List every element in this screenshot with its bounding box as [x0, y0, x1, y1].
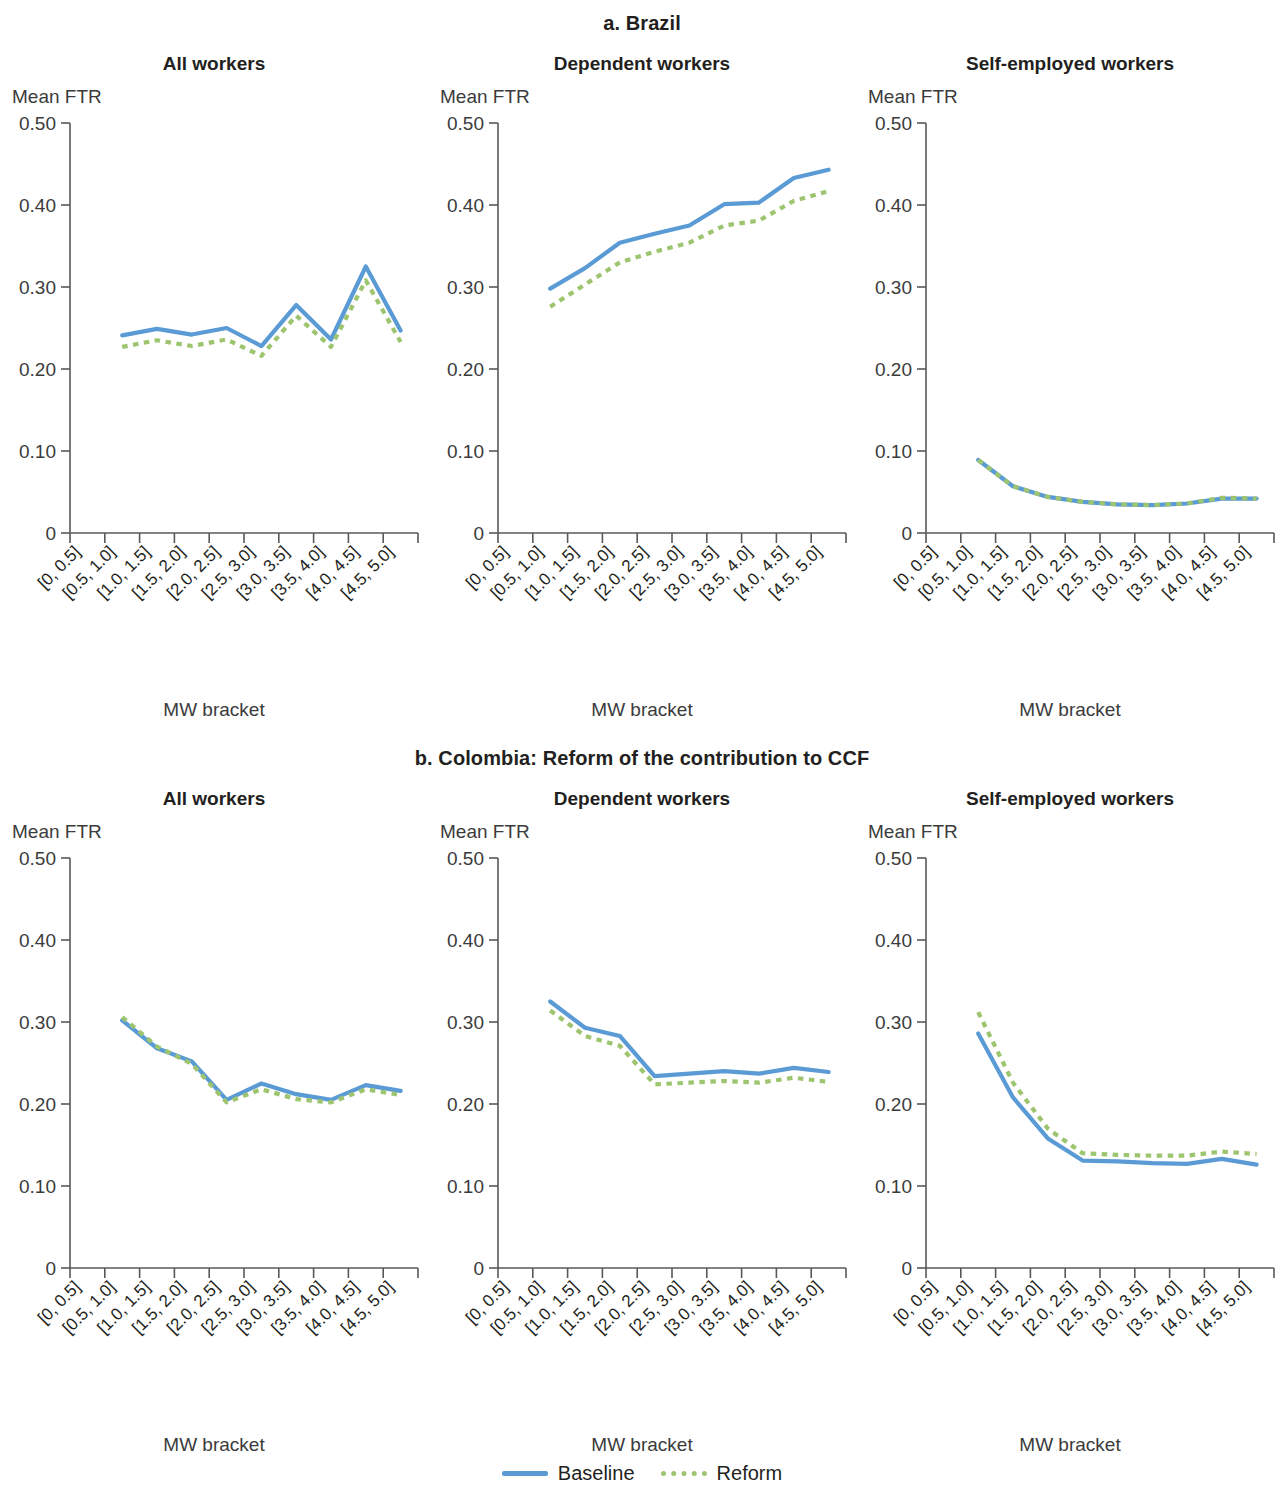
- chart-svg-brazil-all-workers: Mean FTR0.500.400.300.200.100[0, 0.5][0.…: [0, 75, 428, 695]
- ytick-label: 0.30: [19, 1012, 56, 1033]
- section-title-colombia: b. Colombia: Reform of the contribution …: [0, 747, 1284, 770]
- chart-svg-colombia-self-employed-workers: Mean FTR0.500.400.300.200.100[0, 0.5][0.…: [856, 810, 1284, 1430]
- legend-item-baseline: Baseline: [502, 1462, 635, 1485]
- legend-swatch-reform-icon: [661, 1471, 707, 1476]
- ytick-label: 0: [473, 523, 484, 544]
- ytick-label: 0.50: [19, 848, 56, 869]
- ytick-label: 0.50: [875, 848, 912, 869]
- ytick-label: 0.20: [19, 359, 56, 380]
- series-line-baseline: [978, 1033, 1256, 1164]
- panel-title-b-all-workers: All workers: [0, 788, 428, 810]
- ytick-label: 0.30: [875, 1012, 912, 1033]
- yaxis-caption: Mean FTR: [868, 821, 958, 842]
- chart-brazil-dependent-workers: Mean FTR0.500.400.300.200.100[0, 0.5][0.…: [428, 75, 856, 721]
- chart-colombia-self-employed-workers: Mean FTR0.500.400.300.200.100[0, 0.5][0.…: [856, 810, 1284, 1456]
- ytick-label: 0.20: [875, 1094, 912, 1115]
- ytick-label: 0.40: [19, 195, 56, 216]
- yaxis-caption: Mean FTR: [12, 821, 102, 842]
- ytick-label: 0.50: [875, 113, 912, 134]
- ytick-label: 0.20: [875, 359, 912, 380]
- panel-title-a-self-employed-workers: Self-employed workers: [856, 53, 1284, 75]
- yaxis-caption: Mean FTR: [868, 86, 958, 107]
- ytick-label: 0.10: [875, 441, 912, 462]
- series-line-baseline: [122, 267, 400, 347]
- xaxis-title-colombia-all-workers: MW bracket: [0, 1434, 428, 1456]
- ytick-label: 0.50: [447, 113, 484, 134]
- ytick-label: 0: [45, 523, 56, 544]
- ytick-label: 0: [901, 1258, 912, 1279]
- series-line-baseline: [550, 1002, 828, 1077]
- ytick-label: 0.50: [447, 848, 484, 869]
- ytick-label: 0.30: [447, 277, 484, 298]
- ytick-label: 0.40: [875, 930, 912, 951]
- ytick-label: 0.40: [447, 930, 484, 951]
- ytick-label: 0.30: [447, 1012, 484, 1033]
- ytick-label: 0: [901, 523, 912, 544]
- legend-label-baseline: Baseline: [558, 1462, 635, 1485]
- chart-svg-brazil-dependent-workers: Mean FTR0.500.400.300.200.100[0, 0.5][0.…: [428, 75, 856, 695]
- panel-title-b-self-employed-workers: Self-employed workers: [856, 788, 1284, 810]
- chart-svg-colombia-all-workers: Mean FTR0.500.400.300.200.100[0, 0.5][0.…: [0, 810, 428, 1430]
- chart-colombia-dependent-workers: Mean FTR0.500.400.300.200.100[0, 0.5][0.…: [428, 810, 856, 1456]
- section-title-brazil: a. Brazil: [0, 12, 1284, 35]
- xaxis-title-brazil-all-workers: MW bracket: [0, 699, 428, 721]
- series-line-baseline: [550, 170, 828, 289]
- panel-title-a-all-workers: All workers: [0, 53, 428, 75]
- charts-row-colombia: Mean FTR0.500.400.300.200.100[0, 0.5][0.…: [0, 810, 1284, 1456]
- series-line-baseline: [978, 460, 1256, 505]
- panel-titles-row-b: All workers Dependent workers Self-emplo…: [0, 788, 1284, 810]
- xaxis-title-brazil-dependent-workers: MW bracket: [428, 699, 856, 721]
- ytick-label: 0.20: [447, 1094, 484, 1115]
- xaxis-title-colombia-dependent-workers: MW bracket: [428, 1434, 856, 1456]
- legend-label-reform: Reform: [717, 1462, 783, 1485]
- yaxis-caption: Mean FTR: [440, 86, 530, 107]
- legend-item-reform: Reform: [661, 1462, 783, 1485]
- ytick-label: 0.50: [19, 113, 56, 134]
- chart-svg-colombia-dependent-workers: Mean FTR0.500.400.300.200.100[0, 0.5][0.…: [428, 810, 856, 1430]
- chart-brazil-all-workers: Mean FTR0.500.400.300.200.100[0, 0.5][0.…: [0, 75, 428, 721]
- ytick-label: 0.30: [875, 277, 912, 298]
- xaxis-title-colombia-self-employed-workers: MW bracket: [856, 1434, 1284, 1456]
- xaxis-title-brazil-self-employed-workers: MW bracket: [856, 699, 1284, 721]
- ytick-label: 0: [45, 1258, 56, 1279]
- ytick-label: 0.10: [447, 441, 484, 462]
- series-line-baseline: [122, 1020, 400, 1100]
- series-line-reform: [550, 191, 828, 307]
- chart-colombia-all-workers: Mean FTR0.500.400.300.200.100[0, 0.5][0.…: [0, 810, 428, 1456]
- ytick-label: 0.40: [875, 195, 912, 216]
- yaxis-caption: Mean FTR: [440, 821, 530, 842]
- chart-brazil-self-employed-workers: Mean FTR0.500.400.300.200.100[0, 0.5][0.…: [856, 75, 1284, 721]
- panel-titles-row-a: All workers Dependent workers Self-emplo…: [0, 53, 1284, 75]
- ytick-label: 0: [473, 1258, 484, 1279]
- ytick-label: 0.30: [19, 277, 56, 298]
- panel-title-a-dependent-workers: Dependent workers: [428, 53, 856, 75]
- ytick-label: 0.10: [875, 1176, 912, 1197]
- ytick-label: 0.40: [19, 930, 56, 951]
- ytick-label: 0.10: [447, 1176, 484, 1197]
- ytick-label: 0.20: [19, 1094, 56, 1115]
- ytick-label: 0.40: [447, 195, 484, 216]
- chart-svg-brazil-self-employed-workers: Mean FTR0.500.400.300.200.100[0, 0.5][0.…: [856, 75, 1284, 695]
- series-line-reform: [978, 1012, 1256, 1156]
- ytick-label: 0.10: [19, 441, 56, 462]
- yaxis-caption: Mean FTR: [12, 86, 102, 107]
- ytick-label: 0.10: [19, 1176, 56, 1197]
- ytick-label: 0.20: [447, 359, 484, 380]
- panel-title-b-dependent-workers: Dependent workers: [428, 788, 856, 810]
- charts-row-brazil: Mean FTR0.500.400.300.200.100[0, 0.5][0.…: [0, 75, 1284, 721]
- legend-swatch-baseline-icon: [502, 1471, 548, 1476]
- figure-legend: Baseline Reform: [0, 1462, 1284, 1485]
